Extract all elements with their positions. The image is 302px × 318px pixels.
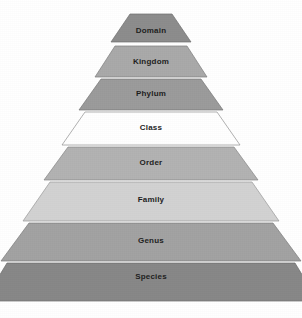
pyramid-tier-family: Family: [23, 182, 279, 221]
pyramid-tier-phylum: Phylum: [79, 79, 223, 110]
pyramid-tier-group: DomainKingdomPhylumClassOrderFamilyGenus…: [0, 14, 302, 301]
pyramid-canvas: DomainKingdomPhylumClassOrderFamilyGenus…: [0, 0, 302, 318]
pyramid-tier-domain: Domain: [111, 14, 191, 42]
tier-shape-species: [0, 263, 302, 301]
pyramid-tier-kingdom: Kingdom: [95, 46, 207, 77]
tier-label-phylum: Phylum: [136, 89, 166, 98]
pyramid-tier-species: Species: [0, 263, 302, 301]
tier-label-species: Species: [135, 272, 167, 281]
tier-label-domain: Domain: [136, 26, 167, 35]
pyramid-tier-order: Order: [44, 147, 258, 180]
pyramid-tier-genus: Genus: [1, 223, 301, 261]
tier-label-class: Class: [140, 123, 163, 132]
tier-label-order: Order: [140, 158, 163, 167]
taxonomic-rank-pyramid: DomainKingdomPhylumClassOrderFamilyGenus…: [0, 0, 302, 318]
tier-label-family: Family: [138, 195, 165, 204]
pyramid-tier-class: Class: [62, 112, 240, 145]
tier-label-kingdom: Kingdom: [133, 57, 169, 66]
tier-label-genus: Genus: [138, 236, 164, 245]
